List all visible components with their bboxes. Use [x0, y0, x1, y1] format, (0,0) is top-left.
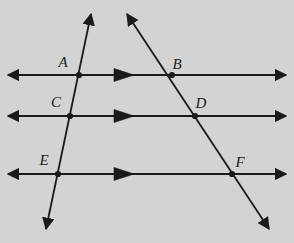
single-arrow-marker: [114, 168, 134, 181]
vertex-label-a: A: [58, 55, 67, 70]
intersection-point-e: [55, 171, 61, 177]
intersection-points-group: [55, 72, 235, 177]
vertex-label-c: C: [51, 95, 61, 110]
vertex-label-d: D: [196, 96, 207, 111]
intersection-point-f: [229, 171, 235, 177]
single-arrow-marker: [114, 110, 134, 123]
left-transversal: [46, 14, 91, 229]
vertex-label-b: B: [172, 57, 181, 72]
transversals-group: [46, 14, 269, 229]
vertex-label-f: F: [235, 155, 244, 170]
right-transversal: [127, 14, 269, 229]
vertex-label-e: E: [39, 153, 48, 168]
single-arrow-marker: [114, 69, 134, 82]
intersection-point-b: [169, 72, 175, 78]
geometry-canvas: [0, 0, 294, 243]
intersection-point-a: [76, 72, 82, 78]
parallel-tick-markers-group: [114, 69, 134, 181]
geometry-figure: ABCDEF: [0, 0, 294, 243]
intersection-point-d: [192, 113, 198, 119]
intersection-point-c: [67, 113, 73, 119]
